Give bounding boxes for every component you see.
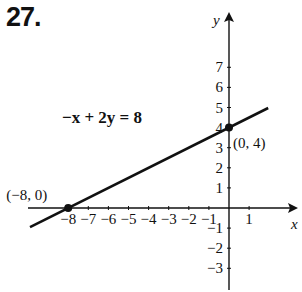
- y-tick-label: −2: [207, 240, 223, 256]
- point-label: (0, 4): [233, 135, 266, 152]
- x-axis-label: x: [290, 216, 298, 232]
- y-tick-label: 5: [216, 100, 224, 116]
- x-tick-label: −7: [80, 211, 96, 227]
- x-tick-label: −6: [100, 211, 116, 227]
- y-tick-label: 2: [216, 160, 224, 176]
- y-tick-label: 7: [216, 59, 224, 75]
- equation-label: −x + 2y = 8: [62, 108, 142, 127]
- y-axis-label: y: [211, 12, 220, 28]
- y-tick-label: −1: [207, 220, 223, 236]
- y-tick-label: 1: [216, 180, 224, 196]
- point-label: (−8, 0): [6, 187, 47, 204]
- y-tick-label: 3: [216, 140, 224, 156]
- x-tick-label: −8: [60, 211, 76, 227]
- labeled-points: (−8, 0)(0, 4): [6, 124, 265, 212]
- point-marker: [225, 124, 233, 132]
- x-tick-label: −2: [181, 211, 197, 227]
- y-tick-label: −3: [207, 260, 223, 276]
- x-tick-label: −4: [141, 211, 157, 227]
- y-tick-label: 6: [216, 79, 224, 95]
- point-marker: [64, 204, 72, 212]
- x-tick-label: −5: [121, 211, 137, 227]
- x-tick-label: −3: [161, 211, 177, 227]
- x-tick-label: 1: [245, 211, 253, 227]
- tick-labels: −8−7−6−5−4−3−2−11−3−2−11234567: [60, 59, 253, 276]
- graph: x y −8−7−6−5−4−3−2−11−3−2−11234567 (−8, …: [0, 0, 302, 292]
